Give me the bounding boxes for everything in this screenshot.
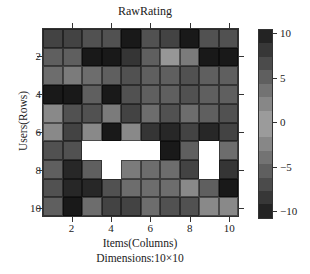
heatmap-cell [82, 197, 102, 216]
heatmap-cell [121, 179, 141, 198]
x-tick-mark [229, 217, 230, 222]
heatmap-cell [180, 29, 200, 48]
heatmap-cell [141, 141, 161, 160]
heatmap-cell [180, 160, 200, 179]
colorbar-segment [259, 137, 272, 150]
heatmap-cell [199, 104, 219, 123]
heatmap-cell [160, 197, 180, 216]
heatmap-cell [63, 179, 83, 198]
x-axis-label: Items(Columns) [40, 237, 240, 249]
x-tick-mark [150, 217, 151, 222]
x-tick-mark [72, 217, 73, 222]
colorbar-segment [259, 84, 272, 97]
heatmap-cell [199, 29, 219, 48]
y-tick-mark [37, 208, 42, 209]
heatmap-cell [43, 179, 63, 198]
colorbar-tick-mark [273, 78, 277, 79]
y-tick-mark [37, 132, 42, 133]
heatmap-cell [219, 66, 239, 85]
heatmap-cell [219, 104, 239, 123]
colorbar-segment [259, 204, 272, 217]
heatmap-cell [160, 179, 180, 198]
x-tick-mark [190, 217, 191, 222]
heatmap-cell [102, 179, 122, 198]
heatmap-cell [160, 29, 180, 48]
heatmap-cell [63, 48, 83, 67]
colorbar-segment [259, 151, 272, 164]
colorbar [258, 29, 273, 219]
heatmap-cell [141, 179, 161, 198]
heatmap-cell [82, 141, 102, 160]
x-tick-mark [111, 23, 112, 28]
heatmap-cell [141, 48, 161, 67]
heatmap-cell [43, 48, 63, 67]
x-tick-mark [229, 23, 230, 28]
heatmap-cell [102, 85, 122, 104]
heatmap-cell [102, 104, 122, 123]
heatmap-cell [82, 123, 102, 142]
heatmap-cell [180, 179, 200, 198]
heatmap-plot [42, 28, 239, 217]
heatmap-cell [160, 141, 180, 160]
heatmap-cell [199, 85, 219, 104]
heatmap-cell [82, 85, 102, 104]
heatmap-cell [43, 197, 63, 216]
x-tick-label: 10 [224, 222, 235, 234]
heatmap-cell [82, 179, 102, 198]
heatmap-cell [141, 197, 161, 216]
heatmap-cell [219, 48, 239, 67]
heatmap-cell [63, 123, 83, 142]
heatmap-cell [219, 85, 239, 104]
heatmap-cell [180, 197, 200, 216]
heatmap-cell [63, 197, 83, 216]
colorbar-segment [259, 178, 272, 191]
heatmap-cell [121, 104, 141, 123]
colorbar-tick-label: −5 [280, 161, 292, 173]
heatmap-cell [141, 160, 161, 179]
heatmap-cell [219, 29, 239, 48]
heatmap-cell [102, 123, 122, 142]
heatmap-cell [141, 29, 161, 48]
heatmap-cell [63, 160, 83, 179]
heatmap-cell [43, 123, 63, 142]
colorbar-tick-label: −10 [280, 205, 297, 217]
heatmap-cell [199, 48, 219, 67]
heatmap-cell [102, 141, 122, 160]
heatmap-cell [43, 160, 63, 179]
colorbar-tick-mark [273, 122, 277, 123]
heatmap-cell [102, 160, 122, 179]
colorbar-tick-mark [273, 167, 277, 168]
y-tick-mark [239, 170, 244, 171]
heatmap-cell [141, 66, 161, 85]
heatmap-cell [82, 29, 102, 48]
colorbar-tick-mark [273, 33, 277, 34]
colorbar-segment [259, 111, 272, 124]
heatmap-cell [102, 29, 122, 48]
y-tick-mark [239, 56, 244, 57]
y-axis-label: Users(Rows) [17, 66, 29, 176]
heatmap-cell [180, 141, 200, 160]
heatmap-cell [63, 85, 83, 104]
heatmap-cell [43, 85, 63, 104]
y-tick-mark [239, 208, 244, 209]
heatmap-cell [63, 29, 83, 48]
y-tick-mark [37, 170, 42, 171]
x-tick-label: 8 [187, 222, 193, 234]
colorbar-segment [259, 57, 272, 70]
x-tick-mark [190, 23, 191, 28]
colorbar-segment [259, 164, 272, 177]
heatmap-cell [160, 48, 180, 67]
heatmap-cell [121, 48, 141, 67]
heatmap-cell [102, 48, 122, 67]
x-tick-label: 2 [69, 222, 75, 234]
heatmap-cell [121, 123, 141, 142]
colorbar-tick-label: 5 [280, 72, 286, 84]
heatmap-cell [121, 85, 141, 104]
heatmap-cell [43, 104, 63, 123]
x-tick-mark [72, 23, 73, 28]
y-tick-mark [239, 94, 244, 95]
heatmap-cell [180, 85, 200, 104]
heatmap-cell [82, 160, 102, 179]
colorbar-tick-label: 0 [280, 116, 286, 128]
heatmap-cell [121, 197, 141, 216]
